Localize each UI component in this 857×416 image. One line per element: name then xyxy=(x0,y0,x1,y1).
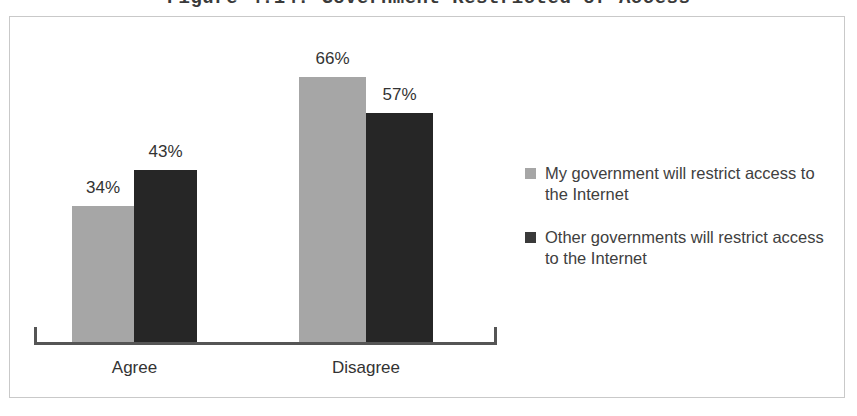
legend-label-my-government: My government will restrict access to th… xyxy=(545,163,835,205)
x-axis-line xyxy=(34,342,497,345)
bar-disagree-my-government xyxy=(299,77,366,344)
bar-value-disagree-other-governments: 57% xyxy=(366,85,433,105)
bar-value-agree-other-governments: 43% xyxy=(134,142,197,162)
bar-disagree-other-governments xyxy=(366,113,433,344)
x-axis-tick-right xyxy=(494,327,497,345)
bar-value-disagree-my-government: 66% xyxy=(299,49,366,69)
legend-item-my-government: My government will restrict access to th… xyxy=(525,163,835,205)
x-axis-label-agree: Agree xyxy=(72,358,197,378)
bar-value-agree-my-government: 34% xyxy=(72,178,134,198)
legend-label-other-governments: Other governments will restrict access t… xyxy=(545,227,835,269)
chart-frame: 34% 43% 66% 57% Agree Disagree My govern… xyxy=(9,16,845,398)
legend-swatch-icon-my-government xyxy=(525,168,536,179)
plot-area: 34% 43% 66% 57% Agree Disagree My govern… xyxy=(10,17,846,399)
legend-swatch-icon-other-governments xyxy=(525,232,536,243)
chart-legend: My government will restrict access to th… xyxy=(525,163,835,291)
bar-agree-my-government xyxy=(72,206,134,344)
x-axis-tick-left xyxy=(34,327,37,345)
legend-item-other-governments: Other governments will restrict access t… xyxy=(525,227,835,269)
chart-title: Figure 4.14: Government Restricted of Ac… xyxy=(0,0,857,9)
bar-agree-other-governments xyxy=(134,170,197,344)
x-axis-label-disagree: Disagree xyxy=(299,358,433,378)
